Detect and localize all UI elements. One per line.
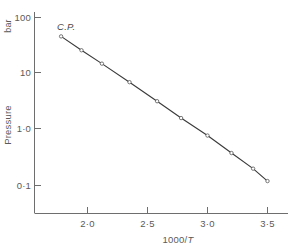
data-point-marker bbox=[59, 35, 62, 38]
x-tick-label-3.5: 3·5 bbox=[260, 218, 274, 229]
critical-point-label: C.P. bbox=[57, 21, 75, 32]
y-tick-label-1: 1·0 bbox=[17, 123, 31, 134]
vapour-pressure-chart: 100 10 1·0 0·1 2·0 2·5 3·0 3·5 bar Press… bbox=[0, 0, 298, 247]
x-tick-label-3.0: 3·0 bbox=[200, 218, 214, 229]
x-axis-title-prefix: 1000/ bbox=[163, 234, 188, 245]
data-point-marker bbox=[100, 62, 103, 65]
chart-background bbox=[0, 0, 298, 247]
x-axis-title: 1000/T bbox=[163, 234, 195, 245]
y-tick-label-0.1: 0·1 bbox=[17, 180, 31, 191]
y-tick-label-100: 100 bbox=[15, 12, 31, 23]
x-tick-label-2.0: 2·0 bbox=[80, 218, 94, 229]
y-axis-unit-label: bar bbox=[3, 19, 13, 33]
data-point-marker bbox=[155, 100, 158, 103]
x-axis-title-variable: T bbox=[187, 234, 194, 245]
data-point-marker bbox=[128, 80, 131, 83]
data-point-marker bbox=[266, 179, 269, 182]
data-point-marker bbox=[179, 116, 182, 119]
y-tick-label-10: 10 bbox=[20, 67, 31, 78]
data-point-marker bbox=[251, 167, 254, 170]
chart-canvas: 100 10 1·0 0·1 2·0 2·5 3·0 3·5 bar Press… bbox=[0, 0, 298, 247]
x-tick-label-2.5: 2·5 bbox=[140, 218, 154, 229]
data-point-marker bbox=[80, 49, 83, 52]
data-point-marker bbox=[230, 151, 233, 154]
y-axis-title: Pressure bbox=[2, 105, 13, 145]
data-point-marker bbox=[206, 134, 209, 137]
